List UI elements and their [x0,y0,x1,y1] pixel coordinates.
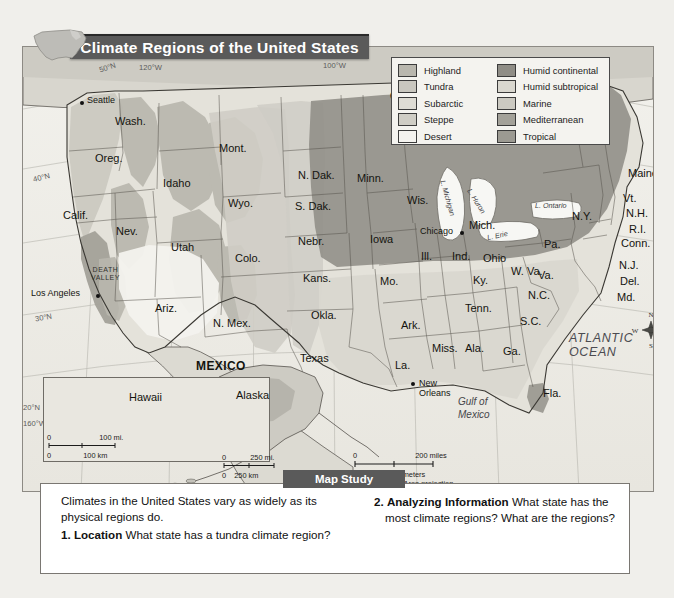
state-label-miss: Miss. [432,342,458,354]
question-column-right: 2. Analyzing Information What state has … [374,493,624,527]
state-label-del: Del. [620,275,640,287]
question-2-number: 2. [374,495,384,508]
legend-label: Mediterranean [523,114,583,125]
state-label-n-mex: N. Mex. [213,317,251,329]
legend-label: Subarctic [424,98,463,109]
state-label-fla: Fla. [543,387,561,399]
legend-swatch-icon [497,64,516,77]
state-label-s-c: S.C. [520,315,541,327]
city-dot-los-angeles [96,294,100,298]
hawaii-scale-bar: 0 100 mi. 0 100 km [47,433,143,460]
compass-rose: N S E W [631,309,654,351]
question-column-left: Climates in the United States vary as wi… [61,493,336,543]
legend-label: Humid continental [523,65,598,76]
inset-label-hawaii: Hawaii [129,391,162,403]
country-label-mexico: MEXICO [196,359,246,373]
state-label-mich: Mich. [469,219,495,231]
page-title: Climate Regions of the United States [70,34,369,59]
legend-swatch-icon [497,130,516,143]
legend-label: Steppe [424,114,454,125]
legend-item-mediterranean: Mediterranean [497,112,598,129]
legend-swatch-icon [398,113,417,126]
legend-swatch-icon [398,80,417,93]
inset-label-alaska: Alaska [236,389,269,401]
state-label-nev: Nev. [116,225,138,237]
question-1-number: 1. [61,528,71,541]
legend-item-humid-continental: Humid continental [497,62,598,79]
map-study-question-box: Climates in the United States vary as wi… [40,483,630,574]
legend-item-highland: Highland [398,62,463,79]
state-label-iowa: Iowa [370,233,393,245]
state-label-minn: Minn. [357,172,384,184]
state-label-r-i: R.I. [629,223,646,235]
feature-label-death-valley: DEATHVALLEY [91,266,120,282]
question-item-2: 2. Analyzing Information What state has … [374,494,624,527]
state-label-n-j: N.J. [619,259,639,271]
page-root: 50°N 120°W 100°W 40°N 30°N 140°W 160°W 2… [0,0,674,598]
legend-swatch-icon [497,113,516,126]
legend-swatch-icon [398,97,417,110]
state-label-ohio: Ohio [483,252,506,264]
state-label-colo: Colo. [235,252,261,264]
legend-column-right: Humid continentalHumid subtropicalMarine… [497,62,598,145]
legend-swatch-icon [398,130,417,143]
grid-label-120w: 120°W [139,63,162,72]
legend-item-tundra: Tundra [398,79,463,96]
state-label-oreg: Oreg. [95,152,123,164]
state-label-ind: Ind. [452,250,470,262]
state-label-ala: Ala. [465,342,484,354]
state-label-conn: Conn. [621,237,650,249]
state-label-tenn: Tenn. [465,302,492,314]
legend-column-left: HighlandTundraSubarcticSteppeDesert [398,62,463,145]
city-label-new-orleans: NewOrleans [419,378,451,398]
state-label-la: La. [395,359,410,371]
state-label-ill: Ill. [421,250,432,262]
state-label-ark: Ark. [401,319,421,331]
legend-label: Humid subtropical [523,81,598,92]
state-label-mo: Mo. [380,275,398,287]
lake-label-ontario: L. Ontario [535,201,567,210]
legend-label: Marine [523,98,552,109]
map-legend: HighlandTundraSubarcticSteppeDesert Humi… [391,57,610,145]
question-2-term: Analyzing Information [387,495,509,508]
legend-swatch-icon [398,64,417,77]
state-label-ky: Ky. [473,274,488,286]
state-label-n-y: N.Y. [572,210,592,222]
legend-item-humid-subtropical: Humid subtropical [497,79,598,96]
state-label-texas: Texas [300,352,329,364]
legend-item-marine: Marine [497,95,598,112]
state-label-ariz: Ariz. [155,302,177,314]
city-dot-new-orleans [411,382,415,386]
question-intro: Climates in the United States vary as wi… [61,493,336,526]
state-label-ga: Ga. [503,345,521,357]
city-label-los-angeles: Los Angeles [31,288,80,298]
city-dot-seattle [80,101,84,105]
legend-label: Desert [424,131,452,142]
legend-item-tropical: Tropical [497,128,598,145]
legend-label: Highland [424,65,461,76]
svg-text:N: N [648,311,653,319]
state-label-calif: Calif. [63,209,88,221]
legend-label: Tropical [523,131,556,142]
state-label-md: Md. [617,291,635,303]
city-label-seattle: Seattle [87,95,115,105]
state-label-n-dak: N. Dak. [298,169,335,181]
grid-label-100w: 100°W [323,61,346,70]
legend-swatch-icon [497,97,516,110]
grid-label-20n: 20°N [23,403,40,412]
map-study-banner: Map Study [283,470,405,488]
water-label-gulf-of-mexico: Gulf ofMexico [458,395,490,421]
state-label-wash: Wash. [115,115,146,127]
question-1-text: What state has a tundra climate region? [125,528,330,541]
state-label-utah: Utah [171,241,194,253]
us-silhouette-icon [28,24,90,68]
state-label-okla: Okla. [311,309,337,321]
city-dot-chicago [460,231,464,235]
question-1-term: Location [74,528,122,541]
state-label-maine: Maine [628,167,654,179]
legend-swatch-icon [497,80,516,93]
svg-text:W: W [632,327,639,335]
state-label-wis: Wis. [407,194,428,206]
city-label-chicago: Chicago [420,226,453,236]
state-label-kans: Kans. [303,272,331,284]
